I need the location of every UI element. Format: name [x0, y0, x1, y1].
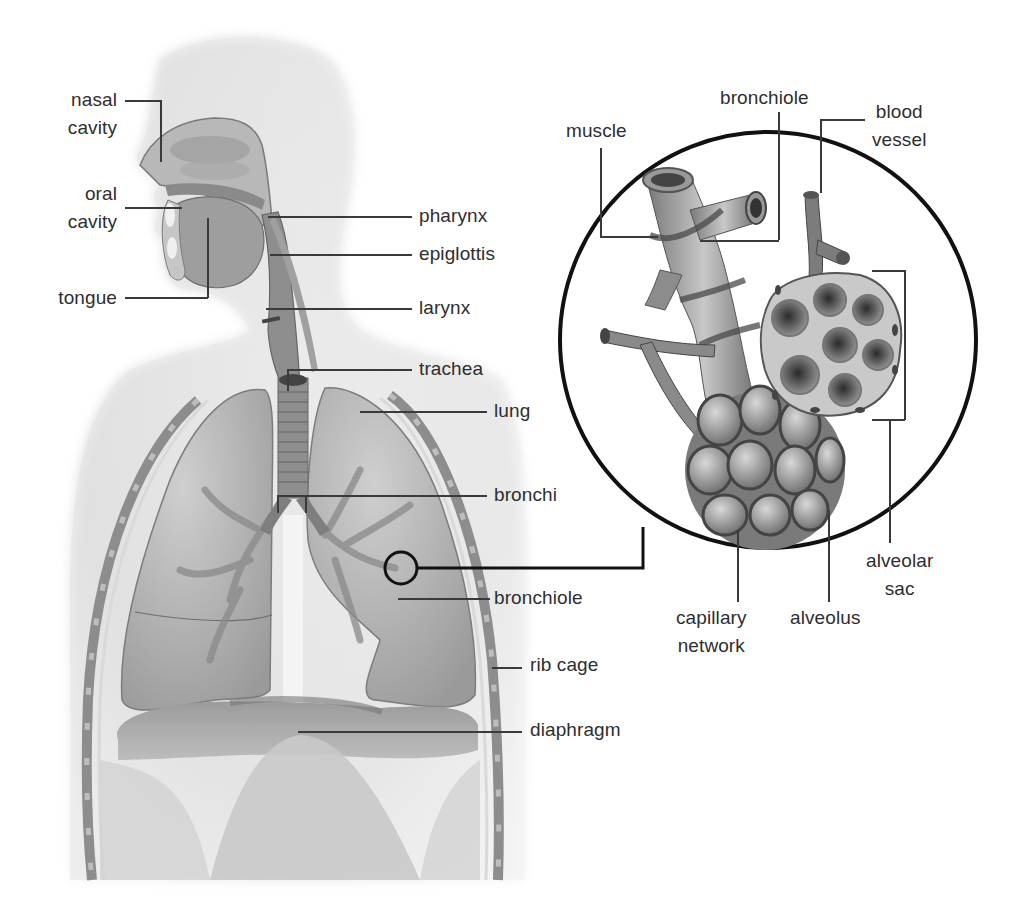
leader-alveolar-sac	[889, 419, 891, 543]
leader-tongue-rise	[207, 218, 209, 298]
label-blood-vessel: blood vessel	[872, 98, 926, 154]
label-alveolar-line1: alveolar	[866, 547, 933, 575]
leader-pharynx	[268, 216, 412, 218]
leader-blood-vessel-drop	[820, 119, 822, 193]
label-oral-line1: oral	[68, 180, 117, 208]
label-pharynx: pharynx	[419, 202, 487, 230]
label-nasal-line1: nasal	[68, 86, 117, 114]
respiratory-system-diagram: nasal cavity oral cavity tongue pharynx …	[0, 0, 1016, 909]
leader-bronchi-left	[277, 495, 279, 513]
label-capillary-line2: network	[676, 632, 747, 660]
label-trachea: trachea	[419, 355, 483, 383]
leader-nasal-cavity-drop	[160, 100, 162, 162]
leader-rib-cage	[492, 667, 522, 669]
leader-trachea-drop	[287, 369, 289, 391]
leader-inset-bronchiole-drop	[778, 112, 780, 240]
label-larynx: larynx	[419, 294, 470, 322]
label-nasal-line2: cavity	[68, 114, 117, 142]
leader-trachea	[287, 369, 412, 371]
bracket-alveolar-sac	[904, 270, 906, 420]
leader-inset-bronchiole	[700, 240, 779, 242]
leader-muscle-drop	[600, 148, 602, 236]
leader-oral-cavity	[125, 207, 182, 209]
label-capillary-network: capillary network	[676, 604, 747, 660]
label-diaphragm: diaphragm	[530, 716, 621, 744]
leader-epiglottis	[270, 254, 412, 256]
leader-bronchi	[277, 495, 487, 497]
leader-capillary-network	[737, 530, 739, 602]
label-oral-cavity: oral cavity	[68, 180, 117, 236]
leader-diaphragm	[298, 731, 522, 733]
label-capillary-line1: capillary	[676, 604, 747, 632]
inset-magnified-view	[560, 132, 976, 550]
leader-lung	[360, 411, 487, 413]
leader-muscle	[600, 236, 658, 238]
label-inset-bronchiole: bronchiole	[720, 84, 809, 112]
label-nasal-cavity: nasal cavity	[68, 86, 117, 142]
leader-alveolus	[828, 510, 830, 602]
label-epiglottis: epiglottis	[419, 240, 495, 268]
leader-blood-vessel	[820, 119, 865, 121]
label-blood-line2: vessel	[872, 126, 926, 154]
leader-nasal-cavity	[125, 100, 161, 102]
label-oral-line2: cavity	[68, 208, 117, 236]
bracket-alveolar-sac-top	[872, 270, 905, 272]
label-alveolar-sac: alveolar sac	[866, 547, 933, 603]
label-blood-line1: blood	[872, 98, 926, 126]
label-alveolar-line2: sac	[866, 575, 933, 603]
label-alveolus: alveolus	[790, 604, 861, 632]
label-muscle: muscle	[566, 117, 627, 145]
label-bronchi: bronchi	[494, 481, 557, 509]
leader-tongue	[125, 297, 208, 299]
label-bronchiole: bronchiole	[494, 584, 583, 612]
label-lung: lung	[494, 397, 530, 425]
leader-bronchi-right	[305, 495, 307, 513]
leader-bronchiole	[398, 598, 490, 600]
anatomy-illustration	[0, 0, 1016, 909]
alveolar-sac-cutaway	[761, 273, 901, 416]
leader-larynx	[266, 308, 412, 310]
label-tongue: tongue	[58, 284, 117, 312]
label-rib-cage: rib cage	[530, 651, 598, 679]
